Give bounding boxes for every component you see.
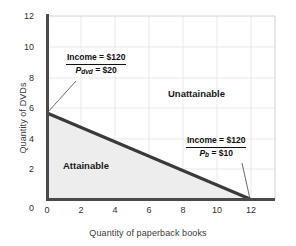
dvd-price-subscript: dvd [81,68,93,75]
x-tick-label-8: 8 [172,205,194,215]
y-axis-title: Quantity of DVDs [18,48,28,188]
budget-constraint-chart: 12 10 8 6 4 2 0 0 2 4 6 8 10 12 Quantity… [0,0,296,246]
book-annotation-denominator: Pb = $10 [186,148,246,159]
x-tick-label-10: 10 [206,205,228,215]
x-tick-label-2: 2 [70,205,92,215]
book-price-annotation: Income = $120 Pb = $10 [186,136,246,159]
dvd-price-value: = $20 [95,65,117,75]
x-tick-label-6: 6 [138,205,160,215]
x-tick-label-0: 0 [36,205,58,215]
x-tick-label-12: 12 [240,205,262,215]
dvd-annotation-numerator: Income = $120 [66,53,126,65]
dvd-price-annotation: Income = $120 Pdvd = $20 [66,53,126,76]
unattainable-region-label: Unattainable [168,88,225,99]
book-annotation-numerator: Income = $120 [186,136,246,148]
y-tick-label-0: 0 [16,203,34,213]
book-price-subscript: b [205,151,209,158]
dvd-annotation-denominator: Pdvd = $20 [66,65,126,76]
attainable-region-label: Attainable [63,160,109,171]
x-tick-label-4: 4 [104,205,126,215]
book-price-value: = $10 [211,148,233,158]
y-tick-label-12: 12 [16,11,34,21]
x-axis-title: Quantity of paperback books [0,228,296,238]
